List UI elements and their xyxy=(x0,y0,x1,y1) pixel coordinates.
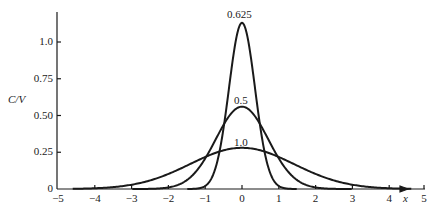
chart-canvas xyxy=(0,0,434,210)
x-tick-label: −4 xyxy=(85,193,105,204)
y-tick-label: 0.50 xyxy=(19,110,53,121)
y-axis-label: C/V xyxy=(8,94,25,105)
y-tick-label: 1.0 xyxy=(19,36,53,47)
curve-10 xyxy=(73,148,412,189)
curve-label-10: 1.0 xyxy=(234,137,248,148)
x-axis-label: x xyxy=(403,193,408,204)
y-tick-label: 0.25 xyxy=(19,146,53,157)
x-tick-label: −1 xyxy=(195,193,215,204)
y-tick-label: 0.75 xyxy=(19,73,53,84)
x-tick-label: 5 xyxy=(414,193,434,204)
curve-label-05: 0.5 xyxy=(234,95,248,106)
x-tick-label: 3 xyxy=(342,193,362,204)
x-tick-label: 2 xyxy=(306,193,326,204)
x-tick-label: 1 xyxy=(269,193,289,204)
x-tick-label: −2 xyxy=(158,193,178,204)
x-tick-label: 0 xyxy=(232,193,252,204)
x-tick-label: −5 xyxy=(48,193,68,204)
x-tick-label: −3 xyxy=(122,193,142,204)
curve-label-0625: 0.625 xyxy=(227,9,252,20)
x-tick-label: 4 xyxy=(379,193,399,204)
